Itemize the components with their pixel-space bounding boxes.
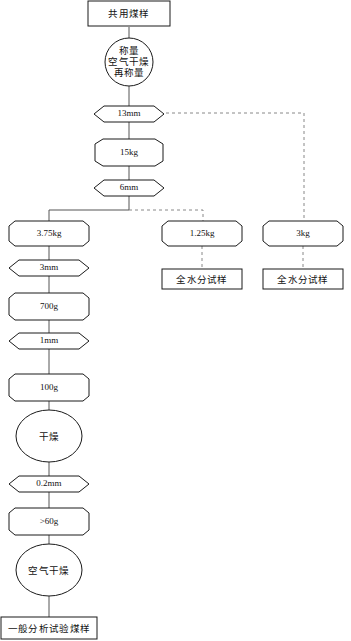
node-general-analysis-sample[interactable]: 一般分析试验煤样 <box>1 617 97 639</box>
mass-125kg-label: 1.25kg <box>190 228 215 238</box>
edge-sieve-6mm-to-mass-375kg <box>49 210 129 221</box>
sieve-6mm-label: 6mm <box>120 182 139 192</box>
sieve-3mm-label: 3mm <box>40 262 59 272</box>
mass-3kg-label: 3kg <box>296 228 310 238</box>
edge-sieve-6mm-to-mass-125kg <box>129 210 203 221</box>
general-analysis-sample-label: 一般分析试验煤样 <box>8 623 90 634</box>
node-mass-gt60g[interactable]: >60g <box>9 508 89 535</box>
mass-100g-label: 100g <box>40 382 59 392</box>
node-drying[interactable]: 干燥 <box>16 410 82 462</box>
mass-15kg-label: 15kg <box>120 147 139 157</box>
flowchart-canvas: 共用煤样 称量 空气干燥 再称量 13mm 15kg 6mm 3.75kg <box>0 0 351 641</box>
drying-label: 干燥 <box>39 431 60 442</box>
flowchart-svg: 共用煤样 称量 空气干燥 再称量 13mm 15kg 6mm 3.75kg <box>0 0 351 641</box>
node-air-drying[interactable]: 空气干燥 <box>16 544 82 596</box>
node-sieve-1mm[interactable]: 1mm <box>9 333 89 349</box>
weigh-line-3: 再称量 <box>114 67 145 78</box>
node-mass-125kg[interactable]: 1.25kg <box>162 221 242 246</box>
node-weigh-airdry-reweigh[interactable]: 称量 空气干燥 再称量 <box>105 38 153 86</box>
common-sample-label: 共用煤样 <box>108 8 149 19</box>
edge-sieve-13mm-to-mass-3kg <box>166 113 304 221</box>
sieve-13mm-label: 13mm <box>117 108 140 118</box>
node-mass-700g[interactable]: 700g <box>9 293 89 320</box>
node-common-sample[interactable]: 共用煤样 <box>88 1 170 26</box>
node-mass-375kg[interactable]: 3.75kg <box>9 221 89 246</box>
weigh-line-1: 称量 <box>119 45 140 56</box>
total-moisture-b-label: 全水分试样 <box>277 274 329 285</box>
weigh-line-2: 空气干燥 <box>108 56 149 67</box>
node-sieve-6mm[interactable]: 6mm <box>94 180 164 196</box>
air-drying-label: 空气干燥 <box>28 565 69 576</box>
node-total-moisture-b[interactable]: 全水分试样 <box>263 269 343 289</box>
mass-375kg-label: 3.75kg <box>37 228 62 238</box>
sieve-02mm-label: 0.2mm <box>36 478 61 488</box>
mass-700g-label: 700g <box>40 301 59 311</box>
node-mass-100g[interactable]: 100g <box>9 374 89 401</box>
node-total-moisture-a[interactable]: 全水分试样 <box>162 269 242 289</box>
node-mass-15kg[interactable]: 15kg <box>95 139 163 166</box>
total-moisture-a-label: 全水分试样 <box>176 274 228 285</box>
mass-gt60g-label: >60g <box>40 516 59 526</box>
node-mass-3kg[interactable]: 3kg <box>263 221 343 246</box>
node-sieve-13mm[interactable]: 13mm <box>94 106 164 122</box>
sieve-1mm-label: 1mm <box>40 335 59 345</box>
node-sieve-02mm[interactable]: 0.2mm <box>9 476 89 492</box>
node-sieve-3mm[interactable]: 3mm <box>9 260 89 276</box>
